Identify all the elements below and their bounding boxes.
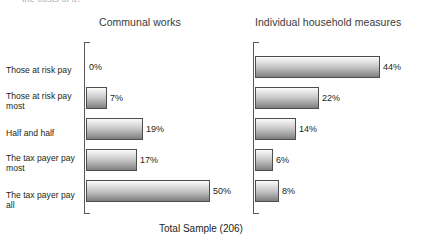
bar-individual-the-tax-payer-pay-all[interactable] [255, 180, 279, 202]
bar-row[interactable]: 0% [86, 56, 102, 78]
bar-row[interactable]: 7% [86, 87, 123, 109]
total-sample-caption: Total Sample (206) [159, 223, 243, 234]
bar-individual-half-and-half[interactable] [255, 118, 296, 140]
bar-individual-the-tax-payer-pay-most[interactable] [255, 149, 273, 171]
category-axis-labels: Those at risk pay Those at risk pay most… [6, 55, 82, 215]
bar-row[interactable]: 17% [86, 149, 158, 171]
bar-value-label: 0% [89, 62, 102, 72]
bar-group-individual-household-measures: 44% 22% 14% 6% 8% [255, 42, 421, 214]
bar-row[interactable]: 50% [86, 180, 231, 202]
bar-communal-half-and-half[interactable] [86, 118, 143, 140]
bar-row[interactable]: 22% [255, 87, 340, 109]
bar-value-label: 50% [213, 186, 231, 196]
category-label-half-and-half: Half and half [6, 128, 82, 138]
bar-communal-the-tax-payer-pay-most[interactable] [86, 149, 137, 171]
chart-panel-communal-works: 0% 7% 19% 17% 50% [84, 42, 234, 214]
bar-value-label: 8% [282, 186, 295, 196]
clipped-caption: the costs of it? [22, 0, 82, 4]
bar-value-label: 14% [299, 124, 317, 134]
bar-row[interactable]: 14% [255, 118, 317, 140]
bar-value-label: 6% [276, 155, 289, 165]
bar-communal-those-at-risk-pay-most[interactable] [86, 87, 107, 109]
bar-individual-those-at-risk-pay[interactable] [255, 56, 380, 78]
bar-value-label: 17% [140, 155, 158, 165]
bar-row[interactable]: 6% [255, 149, 289, 171]
bar-row[interactable]: 19% [86, 118, 164, 140]
chart-page: the costs of it? Communal works Individu… [0, 0, 423, 248]
bar-value-label: 22% [322, 93, 340, 103]
bar-row[interactable]: 44% [255, 56, 401, 78]
bar-group-communal-works: 0% 7% 19% 17% 50% [86, 42, 234, 214]
category-label-those-at-risk-pay-most: Those at risk pay most [6, 91, 82, 112]
bar-row[interactable]: 8% [255, 180, 295, 202]
bar-value-label: 7% [110, 93, 123, 103]
bar-value-label: 44% [383, 62, 401, 72]
chart-panel-individual-household-measures: 44% 22% 14% 6% 8% [253, 42, 421, 214]
bar-value-label: 19% [146, 124, 164, 134]
category-label-those-at-risk-pay: Those at risk pay [6, 65, 82, 75]
bar-communal-the-tax-payer-pay-all[interactable] [86, 180, 210, 202]
panel-title-communal-works: Communal works [99, 16, 181, 28]
category-label-the-tax-payer-pay-all: The tax payer pay all [6, 190, 82, 211]
panel-title-individual-household-measures: Individual household measures [255, 16, 401, 28]
category-label-the-tax-payer-pay-most: The tax payer pay most [6, 153, 82, 174]
bar-individual-those-at-risk-pay-most[interactable] [255, 87, 319, 109]
